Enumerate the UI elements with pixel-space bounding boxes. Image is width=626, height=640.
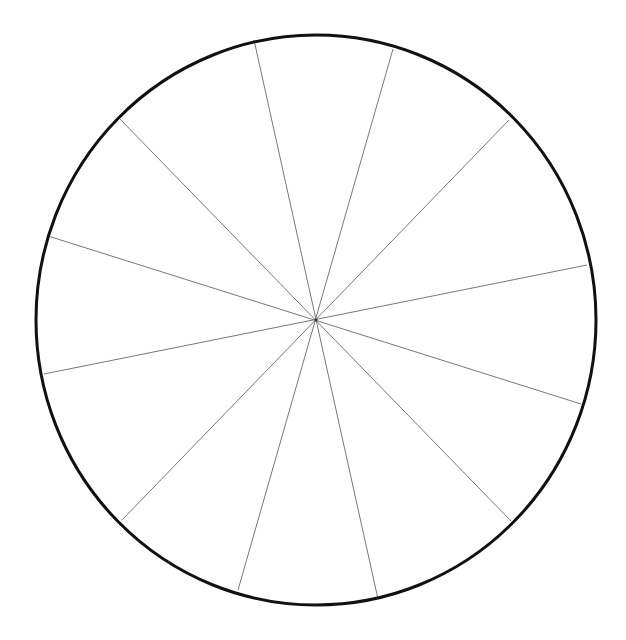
segmented-circle-diagram xyxy=(0,0,626,640)
center-point xyxy=(315,319,318,322)
spoke-line-6 xyxy=(118,117,511,521)
diagram-canvas xyxy=(0,0,626,640)
